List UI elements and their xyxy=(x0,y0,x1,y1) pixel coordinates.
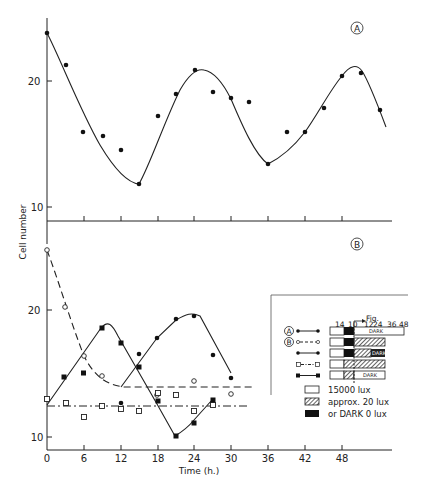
svg-text:36: 36 xyxy=(262,453,275,464)
inset-row-4 xyxy=(297,360,386,368)
figure: 20 10 A xyxy=(0,0,425,486)
open-circle-dashed-curve xyxy=(47,250,255,387)
svg-text:18: 18 xyxy=(152,453,165,464)
open-square-points xyxy=(45,391,216,420)
svg-text:0: 0 xyxy=(44,453,50,464)
svg-text:30: 30 xyxy=(225,453,238,464)
panel-b-label: B xyxy=(354,240,360,250)
filled-circle-points xyxy=(119,314,234,406)
svg-text:24: 24 xyxy=(188,453,201,464)
key-dark: or DARK 0 lux xyxy=(328,409,387,419)
svg-text:A: A xyxy=(286,327,292,336)
panel-b-ytick-20: 20 xyxy=(28,305,41,316)
x-axis-title: Time (h.) xyxy=(178,466,219,476)
inset-row-3: DARK xyxy=(296,349,386,357)
panel-a-ytick-20: 20 xyxy=(28,76,41,87)
svg-text:42: 42 xyxy=(299,453,312,464)
inset-row-b: B xyxy=(285,338,386,348)
svg-text:B: B xyxy=(286,338,291,347)
open-circle-points xyxy=(45,248,234,398)
svg-text:12: 12 xyxy=(115,453,128,464)
inset-row-a: A DARK xyxy=(285,327,405,337)
inset-key: 15000 lux approx. 20 lux or DARK 0 lux xyxy=(305,385,389,419)
svg-text:DARK: DARK xyxy=(369,328,384,334)
filled-square-curve xyxy=(47,324,212,436)
inset-row-5: DARK xyxy=(296,371,385,379)
svg-text:48: 48 xyxy=(336,453,349,464)
panel-a: 20 10 A xyxy=(28,18,392,244)
panel-a-fit-curve xyxy=(47,33,386,184)
panel-b-ytick-10: 10 xyxy=(31,432,44,443)
filled-circle-curve xyxy=(121,314,231,387)
svg-text:DARK: DARK xyxy=(372,350,387,356)
panel-a-label: A xyxy=(354,24,361,34)
key-15000-lux: 15000 lux xyxy=(328,385,371,395)
svg-text:DARK: DARK xyxy=(363,372,378,378)
svg-text:6: 6 xyxy=(81,453,87,464)
inset-legend: Fig. 14 10 12 24 36 48 A DARK B xyxy=(271,295,409,419)
y-axis-title: Cell number xyxy=(18,204,28,259)
key-20-lux: approx. 20 lux xyxy=(328,397,389,407)
x-tick-labels: 0 6 12 18 24 30 36 42 48 xyxy=(44,453,349,464)
panel-a-points xyxy=(45,31,383,187)
panel-a-ytick-10: 10 xyxy=(31,202,44,213)
